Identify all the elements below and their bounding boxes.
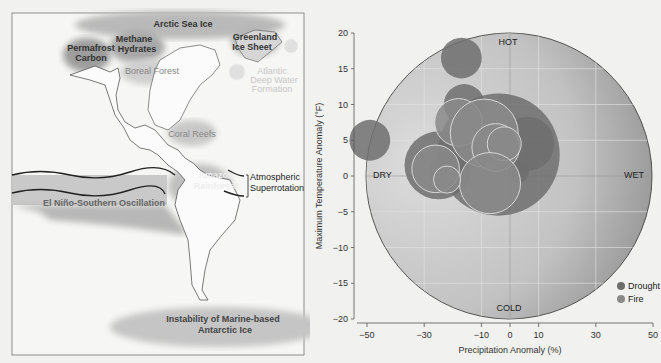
y-tick-label: −20 (333, 314, 348, 324)
anomaly-bubble-chart: 20151050−5−10−15−20 −50−30−100103050 Max… (310, 0, 661, 363)
x-tick-label: −10 (474, 330, 489, 340)
y-tick-label: 5 (343, 135, 348, 145)
legend-drought-swatch (617, 282, 625, 290)
label-enso: El Niño-Southern Oscillation (43, 198, 165, 208)
x-tick-label: 10 (534, 330, 544, 340)
y-axis-label: Maximum Temperature Anomaly (°F) (314, 103, 324, 249)
label-antarctic-1: Instability of Marine-based (166, 314, 280, 324)
label-boreal-forest: Boreal Forest (125, 66, 180, 76)
atlantic-circle-icon (284, 39, 298, 53)
label-amazon-2: Rainforest (194, 181, 239, 191)
label-amazon-1: Amazon (198, 170, 233, 180)
x-tick-label: 50 (648, 330, 658, 340)
x-ticks: −50−30−100103050 (359, 323, 658, 340)
y-tick-label: 0 (343, 171, 348, 181)
legend-fire-label: Fire (628, 294, 644, 304)
y-tick-label: 20 (338, 28, 348, 38)
label-methane-1: Methane (116, 34, 153, 44)
atlantic-circle-icon (229, 64, 245, 80)
quadrant-label-wet: WET (624, 170, 644, 180)
x-tick-label: −50 (359, 330, 374, 340)
bubble-drought (441, 38, 482, 79)
x-axis-label: Precipitation Anomaly (%) (458, 345, 561, 355)
label-greenland-1: Greenland (233, 32, 278, 42)
y-tick-label: −15 (333, 278, 348, 288)
legend-fire-swatch (617, 295, 625, 303)
label-atmospheric-1: Atmospheric (250, 172, 301, 182)
y-ticks: 20151050−5−10−15−20 (333, 28, 354, 324)
quadrant-label-hot: HOT (499, 37, 519, 47)
bubble-drought (349, 120, 390, 161)
y-tick-label: −5 (338, 207, 348, 217)
label-atlantic-3: Formation (252, 84, 293, 94)
y-tick-label: 15 (338, 64, 348, 74)
legend: Drought Fire (617, 281, 661, 304)
x-tick-label: 0 (507, 330, 512, 340)
y-tick-label: −10 (333, 243, 348, 253)
y-tick-label: 10 (338, 100, 348, 110)
climate-tipping-points-map: Arctic Sea Ice Methane Hydrates Permafro… (0, 0, 310, 363)
x-tick-label: −30 (417, 330, 432, 340)
label-permafrost-2: Carbon (75, 53, 107, 63)
label-greenland-2: Ice Sheet (232, 42, 272, 52)
label-arctic-sea-ice: Arctic Sea Ice (153, 19, 212, 29)
legend-drought-label: Drought (628, 281, 661, 291)
x-tick-label: 30 (591, 330, 601, 340)
label-atmospheric-2: Superrotation (250, 183, 304, 193)
label-coral-reefs: Coral Reefs (168, 129, 216, 139)
quadrant-label-dry: DRY (373, 170, 392, 180)
label-methane-2: Hydrates (118, 44, 157, 54)
bubble-fire (459, 153, 520, 214)
label-antarctic-2: Antarctic Ice (198, 325, 252, 335)
label-permafrost-1: Permafrost (67, 43, 115, 53)
quadrant-label-cold: COLD (496, 303, 522, 313)
bubble-fire (433, 166, 460, 193)
